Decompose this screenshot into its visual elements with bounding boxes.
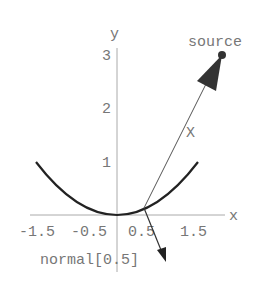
normal-arrowhead-icon [157, 247, 166, 262]
incoming-ray [144, 72, 212, 208]
y-tick-1: 1 [102, 155, 111, 172]
ray-label: X [186, 125, 195, 142]
ray-arrowhead-icon [197, 55, 222, 91]
y-tick-2: 2 [102, 101, 111, 118]
y-axis-label: y [110, 26, 119, 43]
x-axis-label: x [229, 208, 238, 225]
y-tick-3: 3 [102, 48, 111, 65]
source-label: source [188, 34, 242, 51]
normal-label: normal[0.5] [40, 252, 139, 269]
x-tick-1-5: 1.5 [180, 224, 207, 241]
x-tick-neg0-5: -0.5 [71, 224, 107, 241]
x-tick-neg1-5: -1.5 [19, 224, 55, 241]
source-point [218, 51, 226, 59]
reflection-diagram: x y 1 2 3 -1.5 -0.5 0.5 1.5 source X nor… [0, 0, 265, 286]
